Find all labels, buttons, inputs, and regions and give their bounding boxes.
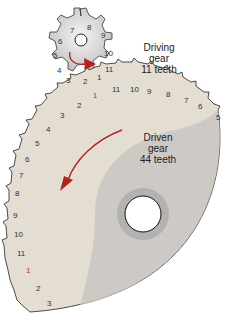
- driven-gear-label: Driven gear 44 teeth: [128, 132, 188, 165]
- svg-text:3: 3: [66, 76, 71, 85]
- driving-gear-label-line1: Driving: [132, 42, 186, 53]
- svg-text:11: 11: [105, 65, 114, 74]
- svg-text:11: 11: [112, 85, 121, 94]
- svg-text:5: 5: [35, 139, 40, 148]
- svg-text:10: 10: [14, 230, 23, 239]
- driving-gear-hub-hole: [75, 34, 87, 46]
- driving-gear-label-line3: 11 teeth: [132, 64, 186, 75]
- driven-gear-hub-hole: [125, 196, 161, 232]
- driving-gear-label-line2: gear: [132, 53, 186, 64]
- svg-text:1: 1: [97, 73, 102, 82]
- driving-gear-label: Driving gear 11 teeth: [132, 42, 186, 75]
- svg-text:7: 7: [19, 171, 24, 180]
- svg-text:1: 1: [93, 91, 98, 100]
- svg-text:6: 6: [25, 155, 30, 164]
- svg-text:10: 10: [130, 85, 139, 94]
- svg-text:8: 8: [15, 189, 20, 198]
- driven-gear-label-line2: gear: [128, 143, 188, 154]
- svg-text:6: 6: [198, 102, 203, 111]
- svg-text:5: 5: [53, 51, 58, 60]
- svg-text:7: 7: [184, 96, 189, 105]
- svg-text:2: 2: [36, 284, 41, 293]
- svg-text:3: 3: [60, 111, 65, 120]
- svg-text:8: 8: [166, 90, 171, 99]
- svg-text:7: 7: [70, 26, 75, 35]
- svg-text:1: 1: [26, 266, 31, 275]
- svg-text:6: 6: [58, 37, 63, 46]
- svg-text:3: 3: [47, 299, 52, 308]
- driven-gear-label-line1: Driven: [128, 132, 188, 143]
- svg-text:9: 9: [13, 211, 18, 220]
- svg-text:10: 10: [104, 49, 113, 58]
- svg-text:2: 2: [77, 101, 82, 110]
- svg-text:2: 2: [83, 77, 88, 86]
- driven-gear-label-line3: 44 teeth: [128, 154, 188, 165]
- svg-text:9: 9: [147, 87, 152, 96]
- svg-text:4: 4: [57, 66, 62, 75]
- svg-text:4: 4: [46, 125, 51, 134]
- svg-text:11: 11: [17, 249, 26, 258]
- svg-text:9: 9: [101, 31, 106, 40]
- gear-diagram: 1 2 3 4 5 6 7 8 9 10 11 11 10 9 8 7 6 5 …: [0, 0, 237, 317]
- svg-text:8: 8: [87, 23, 92, 32]
- svg-text:5: 5: [216, 113, 221, 122]
